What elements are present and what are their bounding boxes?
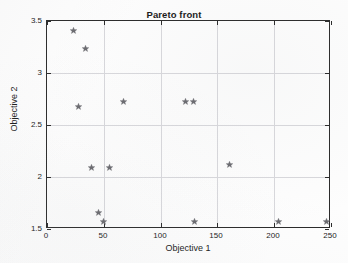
tick-mark-x bbox=[331, 223, 332, 227]
tick-mark-y bbox=[47, 229, 51, 230]
tick-mark-y bbox=[325, 73, 329, 74]
gridline-horizontal bbox=[47, 177, 329, 178]
gridline-vertical bbox=[161, 21, 162, 227]
data-point-marker bbox=[275, 218, 282, 225]
data-point-marker bbox=[88, 164, 95, 171]
tick-mark-x bbox=[161, 21, 162, 25]
data-point-marker bbox=[191, 218, 198, 225]
data-point-marker bbox=[75, 103, 82, 110]
tick-mark-x bbox=[217, 223, 218, 227]
x-tick-label: 100 bbox=[153, 231, 166, 240]
y-tick-label: 3.5 bbox=[16, 16, 42, 25]
data-point-marker bbox=[70, 27, 77, 34]
tick-mark-x bbox=[217, 21, 218, 25]
gridline-vertical bbox=[217, 21, 218, 227]
tick-mark-y bbox=[325, 177, 329, 178]
gridline-vertical bbox=[274, 21, 275, 227]
chart-figure: Pareto front 050100150200250 1.522.533.5… bbox=[0, 0, 348, 263]
tick-mark-x bbox=[104, 21, 105, 25]
x-tick-label: 0 bbox=[44, 231, 48, 240]
data-point-marker bbox=[190, 98, 197, 105]
data-point-marker bbox=[226, 161, 233, 168]
data-point-marker bbox=[95, 209, 102, 216]
y-tick-label: 2 bbox=[16, 172, 42, 181]
tick-mark-y bbox=[325, 229, 329, 230]
chart-title: Pareto front bbox=[0, 9, 348, 20]
x-tick-label: 150 bbox=[209, 231, 222, 240]
gridline-vertical bbox=[104, 21, 105, 227]
data-point-marker bbox=[120, 98, 127, 105]
tick-mark-y bbox=[47, 177, 51, 178]
tick-mark-y bbox=[47, 21, 51, 22]
data-point-marker bbox=[100, 218, 107, 225]
x-tick-label: 250 bbox=[323, 231, 336, 240]
x-tick-label: 50 bbox=[99, 231, 108, 240]
y-tick-label: 1.5 bbox=[16, 224, 42, 233]
tick-mark-x bbox=[331, 21, 332, 25]
plot-area bbox=[46, 20, 330, 228]
y-axis-title: Objective 2 bbox=[9, 69, 19, 149]
x-tick-label: 200 bbox=[266, 231, 279, 240]
data-point-marker bbox=[323, 218, 330, 225]
gridline-horizontal bbox=[47, 125, 329, 126]
y-tick-label: 3 bbox=[16, 68, 42, 77]
y-tick-label: 2.5 bbox=[16, 120, 42, 129]
tick-mark-y bbox=[325, 125, 329, 126]
tick-mark-y bbox=[47, 125, 51, 126]
tick-mark-y bbox=[325, 21, 329, 22]
data-point-marker bbox=[182, 98, 189, 105]
tick-mark-x bbox=[274, 21, 275, 25]
tick-mark-x bbox=[47, 223, 48, 227]
data-point-marker bbox=[82, 45, 89, 52]
tick-mark-y bbox=[47, 73, 51, 74]
data-point-marker bbox=[106, 164, 113, 171]
tick-mark-x bbox=[161, 223, 162, 227]
x-axis-title: Objective 1 bbox=[46, 243, 330, 253]
gridline-horizontal bbox=[47, 73, 329, 74]
